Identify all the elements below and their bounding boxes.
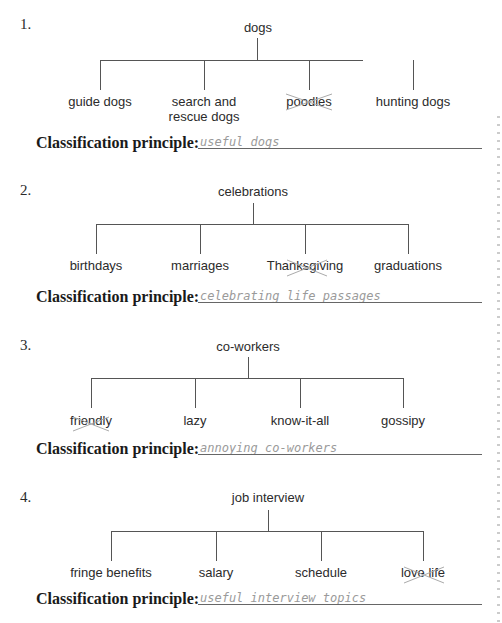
tree-leg xyxy=(100,60,101,90)
tree-child: hunting dogs xyxy=(363,94,463,109)
tree-leg xyxy=(204,60,205,90)
tree-stem xyxy=(268,510,269,531)
exercise-number: 2. xyxy=(20,182,31,199)
answer-underline xyxy=(198,302,482,303)
classification-answer[interactable]: annoying co-workers xyxy=(200,441,337,455)
exercise-number: 1. xyxy=(20,16,31,33)
tree-stem xyxy=(253,203,254,224)
tree-child-crossed-out: friendly xyxy=(41,413,141,428)
tree-leg xyxy=(403,378,404,408)
tree-stem xyxy=(257,38,258,60)
tree-leg xyxy=(321,531,322,561)
tree-leg xyxy=(91,378,92,408)
answer-underline xyxy=(198,604,482,605)
classification-label: Classification principle: xyxy=(36,590,199,608)
exercise-number: 3. xyxy=(20,337,31,354)
answer-underline xyxy=(198,148,482,149)
tree-leg xyxy=(111,531,112,561)
tree-root: celebrations xyxy=(203,184,303,199)
tree-root: co-workers xyxy=(198,339,298,354)
classification-label: Classification principle: xyxy=(36,134,199,152)
tree-leg xyxy=(408,224,409,254)
tree-leg xyxy=(305,224,306,254)
tree-leg xyxy=(216,531,217,561)
tree-leg xyxy=(96,224,97,254)
tree-child: graduations xyxy=(358,258,458,273)
tree-root: job interview xyxy=(218,490,318,505)
tree-child: schedule xyxy=(271,565,371,580)
tree-branch xyxy=(100,60,363,61)
page-edge-bleed xyxy=(491,110,502,623)
tree-child-crossed-out: Thanksgiving xyxy=(255,258,355,273)
tree-leg xyxy=(300,378,301,408)
tree-stem xyxy=(248,357,249,378)
tree-child-crossed-out: love life xyxy=(373,565,473,580)
tree-root: dogs xyxy=(208,20,308,35)
tree-branch xyxy=(111,531,424,532)
classification-label: Classification principle: xyxy=(36,288,199,306)
tree-branch xyxy=(91,378,404,379)
tree-leg xyxy=(423,531,424,561)
classification-answer[interactable]: celebrating life passages xyxy=(200,289,381,303)
classification-answer[interactable]: useful dogs xyxy=(200,135,279,149)
tree-child: salary xyxy=(166,565,266,580)
answer-underline xyxy=(198,454,482,455)
classification-answer[interactable]: useful interview topics xyxy=(200,591,366,605)
tree-leg xyxy=(309,60,310,90)
tree-child: search and rescue dogs xyxy=(154,94,254,124)
tree-leg xyxy=(195,378,196,408)
tree-child: know-it-all xyxy=(250,413,350,428)
tree-child: birthdays xyxy=(46,258,146,273)
tree-child: marriages xyxy=(150,258,250,273)
classification-label: Classification principle: xyxy=(36,440,199,458)
exercise-number: 4. xyxy=(20,489,31,506)
tree-child: lazy xyxy=(145,413,245,428)
tree-child: gossipy xyxy=(353,413,453,428)
tree-child-crossed-out: poodles xyxy=(259,94,359,109)
tree-child: fringe benefits xyxy=(61,565,161,580)
tree-leg xyxy=(200,224,201,254)
tree-child: guide dogs xyxy=(50,94,150,109)
tree-leg xyxy=(413,60,414,90)
tree-branch xyxy=(96,224,409,225)
